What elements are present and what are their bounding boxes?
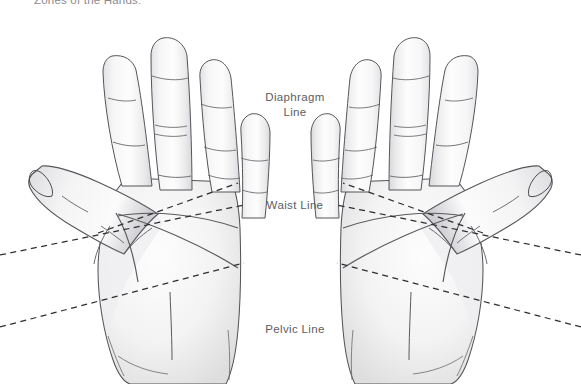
left-ring-shape — [200, 60, 240, 192]
right-ring-shape — [341, 60, 381, 192]
left-middle-shape — [151, 38, 192, 190]
right-index-shape — [429, 56, 478, 186]
diaphragm-line-label-row1: Diaphragm — [253, 90, 337, 105]
left-hand-middle-finger — [151, 38, 192, 190]
right-hand — [311, 38, 552, 384]
diaphragm-line-label: Diaphragm Line — [253, 90, 337, 120]
right-hand-ring-finger — [341, 60, 381, 192]
diaphragm-line-label-row2: Line — [253, 105, 337, 120]
pelvic-line-label: Pelvic Line — [253, 322, 337, 337]
left-index-shape — [103, 56, 152, 186]
waist-line-label: Waist Line — [253, 198, 337, 213]
right-hand-middle-finger — [389, 38, 430, 190]
pelvic-line-label-row1: Pelvic Line — [253, 322, 337, 337]
right-hand-index-finger — [429, 56, 478, 186]
waist-line-label-row1: Waist Line — [253, 198, 337, 213]
right-middle-shape — [389, 38, 430, 190]
figure-caption: Zones of the Hands: — [34, 0, 141, 6]
left-hand-index-finger — [103, 56, 152, 186]
left-hand-ring-finger — [200, 60, 240, 192]
left-hand — [29, 38, 270, 384]
hand-zones-figure: Zones of the Hands: Diaphragm Line Waist… — [0, 0, 581, 384]
